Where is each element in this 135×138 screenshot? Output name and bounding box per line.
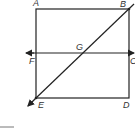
label-b: B [120,0,126,9]
label-e: E [38,100,45,110]
line-eb-arrow-end [28,98,36,106]
label-g: G [76,42,83,52]
label-f: F [29,56,35,66]
point-b [128,8,131,11]
label-c: C [130,56,135,66]
label-d: D [123,100,130,110]
label-a: A [32,0,39,8]
geometry-diagram: A B G F C E D [0,0,135,138]
point-e [35,97,38,100]
line-eb [36,4,134,98]
